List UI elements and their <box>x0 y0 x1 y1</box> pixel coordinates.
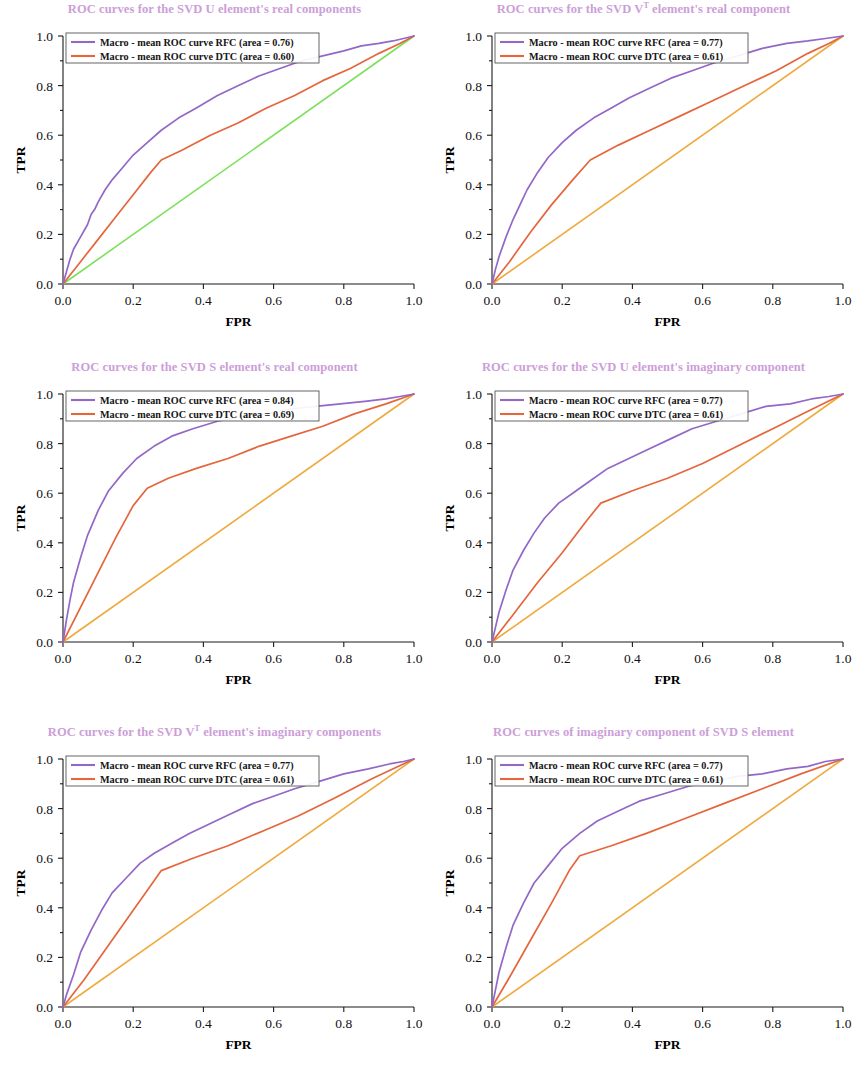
y-tick-label: 1.0 <box>36 387 53 402</box>
legend-label: Macro - mean ROC curve DTC (area = 0.61) <box>529 774 723 786</box>
y-tick-label: 0.2 <box>465 585 482 600</box>
y-tick-label: 0.2 <box>465 950 482 965</box>
x-tick-label: 0.4 <box>624 651 641 666</box>
chance-diagonal-line <box>492 36 843 284</box>
y-tick-label: 0.4 <box>465 901 482 916</box>
y-tick-label: 0.8 <box>465 437 482 452</box>
y-tick-label: 0.4 <box>465 536 482 551</box>
x-tick-label: 1.0 <box>835 293 852 308</box>
chart-panel-svd-u-real: ROC curves for the SVD U element's real … <box>0 0 429 358</box>
x-tick-label: 0.4 <box>624 293 641 308</box>
x-tick-label: 0.2 <box>554 293 571 308</box>
x-axis-title: FPR <box>654 1037 680 1052</box>
x-tick-label: 0.2 <box>125 293 142 308</box>
plot-area-svd-s-real: 0.00.20.40.60.81.00.00.20.40.60.81.0FPRT… <box>0 380 429 700</box>
x-tick-label: 0.8 <box>335 651 352 666</box>
y-tick-label: 1.0 <box>465 387 482 402</box>
chart-title-svd-s-imag: ROC curves of imaginary component of SVD… <box>429 725 858 740</box>
legend-label: Macro - mean ROC curve RFC (area = 0.84) <box>100 395 294 407</box>
x-tick-label: 0.0 <box>55 651 72 666</box>
plot-area-svd-u-real: 0.00.20.40.60.81.00.00.20.40.60.81.0FPRT… <box>0 22 429 342</box>
chance-diagonal-line <box>63 394 414 642</box>
x-axis-title: FPR <box>654 672 680 687</box>
y-tick-label: 0.0 <box>36 277 53 292</box>
y-tick-label: 0.6 <box>465 128 482 143</box>
x-tick-label: 0.8 <box>335 293 352 308</box>
x-axis-title: FPR <box>225 314 251 329</box>
chart-panel-svd-vt-real: ROC curves for the SVD VT element's real… <box>429 0 858 358</box>
chart-title-svd-vt-real: ROC curves for the SVD VT element's real… <box>429 2 858 17</box>
x-tick-label: 0.0 <box>55 1016 72 1031</box>
x-axis-title: FPR <box>225 1037 251 1052</box>
y-tick-label: 0.8 <box>465 79 482 94</box>
x-axis-title: FPR <box>225 672 251 687</box>
x-tick-label: 0.4 <box>624 1016 641 1031</box>
y-tick-label: 0.6 <box>36 128 53 143</box>
x-tick-label: 0.8 <box>764 651 781 666</box>
x-tick-label: 0.6 <box>694 1016 711 1031</box>
y-tick-label: 1.0 <box>36 752 53 767</box>
y-axis-title: TPR <box>13 504 28 531</box>
chance-diagonal-line <box>63 759 414 1007</box>
y-tick-label: 0.4 <box>36 178 53 193</box>
x-tick-label: 1.0 <box>406 651 423 666</box>
y-tick-label: 0.6 <box>36 486 53 501</box>
legend-label: Macro - mean ROC curve DTC (area = 0.61) <box>100 774 294 786</box>
y-axis-title: TPR <box>13 146 28 173</box>
y-tick-label: 0.8 <box>465 802 482 817</box>
x-tick-label: 1.0 <box>406 1016 423 1031</box>
y-axis-title: TPR <box>442 869 457 896</box>
chart-panel-svd-s-real: ROC curves for the SVD S element's real … <box>0 358 429 723</box>
y-axis-title: TPR <box>13 869 28 896</box>
x-tick-label: 0.0 <box>484 651 501 666</box>
x-tick-label: 0.4 <box>195 1016 212 1031</box>
legend-label: Macro - mean ROC curve RFC (area = 0.77) <box>529 760 723 772</box>
x-tick-label: 0.8 <box>335 1016 352 1031</box>
x-tick-label: 0.2 <box>125 651 142 666</box>
chance-diagonal-line <box>63 36 414 284</box>
y-tick-label: 0.8 <box>36 437 53 452</box>
x-tick-label: 0.0 <box>484 1016 501 1031</box>
y-tick-label: 0.4 <box>465 178 482 193</box>
chart-panel-svd-s-imag: ROC curves of imaginary component of SVD… <box>429 723 858 1077</box>
chart-title-svd-vt-imag: ROC curves for the SVD VT element's imag… <box>0 725 429 740</box>
legend-label: Macro - mean ROC curve RFC (area = 0.77) <box>529 395 723 407</box>
y-tick-label: 0.8 <box>36 802 53 817</box>
title-superscript: T <box>643 1 648 10</box>
x-tick-label: 0.8 <box>764 293 781 308</box>
chance-diagonal-line <box>492 759 843 1007</box>
legend-label: Macro - mean ROC curve RFC (area = 0.77) <box>100 760 294 772</box>
x-tick-label: 0.4 <box>195 293 212 308</box>
x-tick-label: 0.0 <box>55 293 72 308</box>
y-tick-label: 0.2 <box>36 585 53 600</box>
plot-area-svd-vt-real: 0.00.20.40.60.81.00.00.20.40.60.81.0FPRT… <box>429 22 858 342</box>
chart-title-svd-u-real: ROC curves for the SVD U element's real … <box>0 2 429 17</box>
x-tick-label: 1.0 <box>406 293 423 308</box>
y-tick-label: 0.6 <box>36 851 53 866</box>
chart-title-svd-u-imag: ROC curves for the SVD U element's imagi… <box>429 360 858 375</box>
y-tick-label: 0.6 <box>465 486 482 501</box>
y-tick-label: 0.6 <box>465 851 482 866</box>
y-tick-label: 0.8 <box>36 79 53 94</box>
x-tick-label: 1.0 <box>835 1016 852 1031</box>
x-tick-label: 0.6 <box>265 293 282 308</box>
x-tick-label: 0.2 <box>125 1016 142 1031</box>
x-tick-label: 0.4 <box>195 651 212 666</box>
y-tick-label: 1.0 <box>465 29 482 44</box>
x-tick-label: 0.6 <box>265 1016 282 1031</box>
x-tick-label: 1.0 <box>835 651 852 666</box>
y-axis-title: TPR <box>442 146 457 173</box>
roc-figure-grid: ROC curves for the SVD U element's real … <box>0 0 858 1077</box>
legend-label: Macro - mean ROC curve DTC (area = 0.69) <box>100 409 294 421</box>
legend-label: Macro - mean ROC curve RFC (area = 0.76) <box>100 37 294 49</box>
y-tick-label: 0.0 <box>465 635 482 650</box>
y-tick-label: 0.2 <box>465 227 482 242</box>
x-tick-label: 0.6 <box>694 293 711 308</box>
plot-area-svd-s-imag: 0.00.20.40.60.81.00.00.20.40.60.81.0FPRT… <box>429 745 858 1065</box>
chart-panel-svd-u-imag: ROC curves for the SVD U element's imagi… <box>429 358 858 723</box>
y-axis-title: TPR <box>442 504 457 531</box>
x-tick-label: 0.6 <box>265 651 282 666</box>
y-tick-label: 0.0 <box>465 277 482 292</box>
chart-title-svd-s-real: ROC curves for the SVD S element's real … <box>0 360 429 375</box>
y-tick-label: 1.0 <box>36 29 53 44</box>
